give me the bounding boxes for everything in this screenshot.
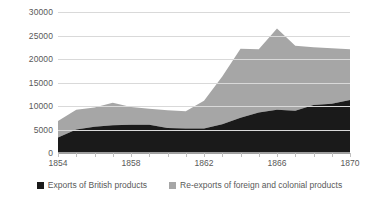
- x-axis-tick-label: 1862: [195, 158, 214, 168]
- x-axis-tick: [332, 153, 333, 157]
- legend-label-british-exports: Exports of British products: [48, 180, 147, 190]
- chart-legend: Exports of British products Re-exports o…: [0, 180, 379, 190]
- y-axis-tick-label: 30000: [29, 7, 53, 17]
- stacked-area-chart: 050001000015000200002500030000 Exports o…: [0, 0, 379, 204]
- x-axis-tick: [295, 153, 296, 157]
- legend-label-re-exports: Re-exports of foreign and colonial produ…: [180, 180, 342, 190]
- x-axis-tick: [58, 153, 59, 157]
- legend-item-british-exports: Exports of British products: [37, 180, 147, 190]
- x-axis-tick-label: 1870: [341, 158, 360, 168]
- x-axis-tick: [222, 153, 223, 157]
- x-axis-tick: [350, 153, 351, 157]
- x-axis-tick: [131, 153, 132, 157]
- x-axis-tick: [186, 153, 187, 157]
- gridline: [58, 106, 350, 107]
- legend-item-re-exports: Re-exports of foreign and colonial produ…: [169, 180, 342, 190]
- x-axis-tick: [259, 153, 260, 157]
- x-axis-tick: [314, 153, 315, 157]
- y-axis-tick-label: 15000: [29, 78, 53, 88]
- legend-swatch-re-exports: [169, 182, 176, 189]
- x-axis-tick: [95, 153, 96, 157]
- gridline: [58, 36, 350, 37]
- gridline: [58, 59, 350, 60]
- legend-swatch-british-exports: [37, 182, 44, 189]
- plot-area: [58, 12, 350, 153]
- y-axis-tick-label: 10000: [29, 101, 53, 111]
- x-axis-tick: [149, 153, 150, 157]
- y-axis-tick-label: 5000: [34, 125, 53, 135]
- x-axis-tick-label: 1858: [122, 158, 141, 168]
- x-axis-tick-label: 1854: [49, 158, 68, 168]
- gridline: [58, 130, 350, 131]
- y-axis-labels: 050001000015000200002500030000: [0, 0, 53, 204]
- x-axis-tick: [76, 153, 77, 157]
- x-axis-tick: [277, 153, 278, 157]
- x-axis-tick: [168, 153, 169, 157]
- x-axis-tick-label: 1866: [268, 158, 287, 168]
- x-axis-tick: [113, 153, 114, 157]
- y-axis-tick-label: 20000: [29, 54, 53, 64]
- y-axis-tick-label: 25000: [29, 31, 53, 41]
- gridline: [58, 12, 350, 13]
- gridline: [58, 83, 350, 84]
- x-axis-tick: [241, 153, 242, 157]
- y-axis-tick-label: 0: [48, 148, 53, 158]
- x-axis-tick: [204, 153, 205, 157]
